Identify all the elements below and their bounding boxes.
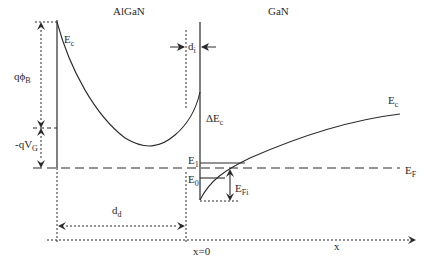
label-q-vg: -qVG xyxy=(15,138,38,153)
arrow-head-icon xyxy=(37,22,45,30)
label-dd: dd xyxy=(112,204,122,219)
arrow-head-icon xyxy=(37,160,45,168)
region-label-algan: AlGaN xyxy=(113,5,145,17)
label-efi: EFi xyxy=(235,182,249,197)
label-ef: EF xyxy=(405,164,417,179)
x-axis-arrow-icon xyxy=(408,236,416,244)
label-x-axis: x xyxy=(334,240,340,252)
label-di: di xyxy=(188,40,197,55)
arrow-head-icon xyxy=(37,128,45,136)
label-e1: E1 xyxy=(188,154,199,169)
label-e0: E0 xyxy=(188,173,199,188)
label-q-phi-b: qϕB xyxy=(14,70,31,85)
label-ec-left: Ec xyxy=(64,33,75,48)
label-x0: x=0 xyxy=(193,245,211,257)
band-diagram: AlGaN GaN Ec di qϕB -qVG ΔEc E1 xyxy=(0,0,429,269)
region-label-gan: GaN xyxy=(268,5,289,17)
arrow-head-icon xyxy=(58,222,66,230)
arrow-head-icon xyxy=(37,120,45,128)
algan-conduction-band-curve xyxy=(57,22,200,146)
arrow-head-icon xyxy=(177,222,185,230)
label-delta-ec: ΔEc xyxy=(206,112,224,127)
label-ec-right: Ec xyxy=(388,94,399,109)
